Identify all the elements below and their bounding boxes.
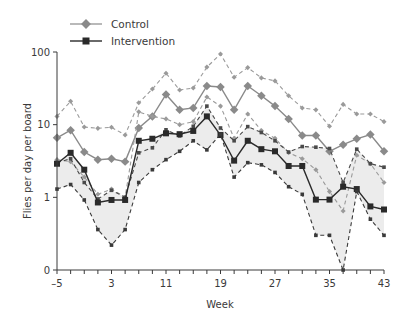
x-tick-label: 19 — [214, 278, 227, 289]
square-marker-icon — [110, 188, 114, 192]
square-marker-icon — [382, 234, 386, 238]
square-marker-icon — [136, 138, 142, 144]
square-marker-icon — [151, 146, 155, 150]
legend-item-control: Control — [70, 18, 149, 30]
x-tick-label: 11 — [160, 278, 173, 289]
legend-label-control: Control — [111, 18, 149, 30]
diamond-marker-icon — [123, 132, 128, 137]
square-marker-icon — [177, 131, 183, 137]
diamond-marker-icon — [136, 109, 141, 114]
square-marker-icon — [69, 157, 73, 161]
square-marker-icon — [314, 145, 318, 149]
square-marker-icon — [314, 234, 318, 238]
x-tick-label: 27 — [269, 278, 282, 289]
square-marker-icon — [258, 146, 264, 152]
square-marker-icon — [178, 150, 182, 154]
diamond-marker-icon — [203, 82, 211, 90]
square-marker-icon — [163, 130, 169, 136]
square-marker-icon — [273, 171, 277, 175]
diamond-marker-icon — [204, 65, 209, 70]
square-marker-icon — [328, 234, 332, 238]
line-chart: Control Intervention 0110100 –5311192735… — [0, 0, 414, 329]
diamond-marker-icon — [230, 106, 238, 114]
square-marker-icon — [232, 139, 236, 143]
diamond-marker-icon — [94, 155, 102, 163]
diamond-marker-icon — [121, 157, 129, 165]
legend-label-intervention: Intervention — [111, 35, 175, 47]
square-marker-icon — [123, 228, 127, 232]
diamond-marker-icon — [216, 83, 224, 91]
square-marker-icon — [137, 151, 141, 155]
y-tick-label: 1 — [44, 192, 50, 203]
series-line — [57, 86, 384, 162]
square-marker-icon — [81, 167, 87, 173]
square-marker-icon — [245, 138, 251, 144]
diamond-marker-icon — [177, 122, 182, 127]
y-axis-title: Flies per day per board — [22, 103, 33, 219]
square-marker-icon — [381, 207, 387, 213]
square-marker-icon — [313, 197, 319, 203]
square-marker-icon — [367, 203, 373, 209]
series-line — [57, 54, 384, 135]
square-marker-icon — [122, 197, 128, 203]
plot-area — [53, 51, 388, 271]
diamond-marker-icon — [313, 107, 318, 112]
square-marker-icon — [190, 128, 196, 134]
series-control-upper-bound — [54, 51, 386, 137]
square-marker-icon — [355, 190, 359, 194]
series-control — [53, 82, 388, 166]
square-marker-icon — [83, 38, 90, 45]
square-marker-icon — [382, 165, 386, 169]
square-marker-icon — [369, 217, 373, 221]
square-marker-icon — [246, 161, 250, 165]
square-marker-icon — [272, 148, 278, 154]
square-marker-icon — [205, 148, 209, 152]
square-marker-icon — [109, 197, 115, 203]
square-marker-icon — [191, 139, 195, 143]
diamond-marker-icon — [244, 82, 252, 90]
square-marker-icon — [69, 183, 73, 187]
square-marker-icon — [110, 243, 114, 247]
square-marker-icon — [340, 184, 346, 190]
square-marker-icon — [96, 228, 100, 232]
square-marker-icon — [204, 113, 210, 119]
diamond-marker-icon — [66, 126, 74, 134]
square-marker-icon — [95, 199, 101, 205]
diamond-marker-icon — [82, 124, 87, 129]
square-marker-icon — [287, 150, 291, 154]
diamond-marker-icon — [245, 112, 250, 117]
diamond-marker-icon — [81, 19, 91, 29]
x-axis-title: Week — [206, 299, 234, 310]
square-marker-icon — [164, 158, 168, 162]
diamond-marker-icon — [107, 154, 115, 162]
square-marker-icon — [205, 104, 209, 108]
diamond-marker-icon — [259, 75, 264, 80]
diamond-marker-icon — [189, 104, 197, 112]
diamond-marker-icon — [218, 104, 223, 109]
square-marker-icon — [231, 158, 237, 164]
diamond-marker-icon — [177, 87, 182, 92]
square-marker-icon — [286, 163, 292, 169]
x-ticks: –531119273543 — [51, 270, 390, 289]
square-marker-icon — [82, 181, 86, 185]
square-marker-icon — [327, 197, 333, 203]
diamond-marker-icon — [109, 125, 114, 130]
diamond-marker-icon — [80, 148, 88, 156]
square-marker-icon — [191, 124, 195, 128]
square-marker-icon — [328, 147, 332, 151]
diamond-marker-icon — [353, 135, 361, 143]
diamond-marker-icon — [381, 119, 386, 124]
x-tick-label: 35 — [323, 278, 336, 289]
square-marker-icon — [232, 175, 236, 179]
square-marker-icon — [260, 131, 264, 135]
y-ticks: 0110100 — [31, 47, 57, 276]
square-marker-icon — [287, 185, 291, 189]
diamond-marker-icon — [368, 112, 373, 117]
x-tick-label: 43 — [378, 278, 391, 289]
y-tick-label: 10 — [37, 119, 50, 130]
intervention-ci-band — [57, 106, 384, 270]
square-marker-icon — [68, 150, 74, 156]
square-marker-icon — [82, 198, 86, 202]
square-marker-icon — [151, 168, 155, 172]
square-marker-icon — [137, 181, 141, 185]
